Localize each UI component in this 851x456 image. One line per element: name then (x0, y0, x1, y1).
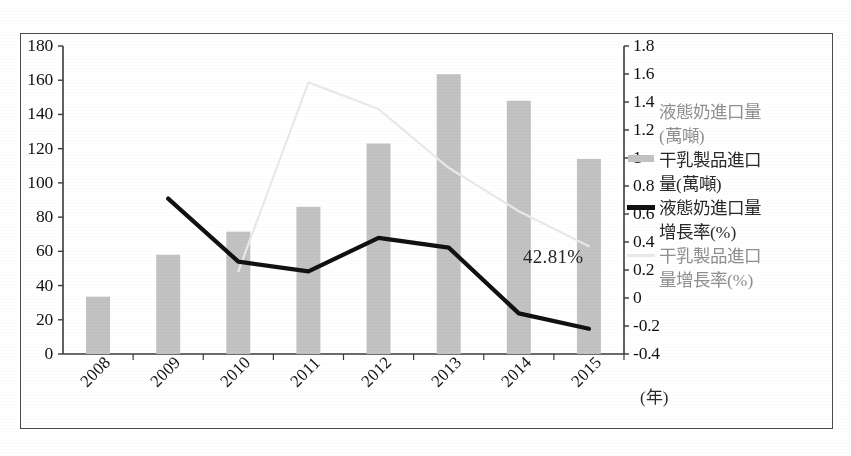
chart-legend: 液態奶進口量(萬噸)干乳製品進口量(萬噸)液態奶進口量增長率(%)干乳製品進口量… (626, 100, 831, 292)
legend-swatch-none-icon (626, 100, 656, 122)
y-axis-right-tick: 1.6 (633, 65, 654, 83)
legend-label-line2: (萬噸) (659, 126, 705, 146)
legend-label: 液態奶進口量(萬噸) (659, 100, 827, 148)
y-axis-left-tick: 180 (0, 37, 53, 55)
legend-item-3[interactable]: 液態奶進口量增長率(%) (626, 196, 831, 244)
legend-item-2[interactable]: 干乳製品進口量(萬噸) (626, 148, 831, 196)
y-axis-left-tick: 80 (0, 208, 53, 226)
legend-swatch-line-light-icon (626, 244, 656, 266)
y-axis-left-tick: 120 (0, 140, 53, 158)
legend-label-line2: 量增長率(%) (659, 270, 753, 290)
legend-swatch-line-dark-icon (626, 196, 656, 218)
legend-label-line2: 增長率(%) (659, 222, 736, 242)
data-annotation-42-81: 42.81% (523, 246, 583, 268)
y-axis-left-tick: 60 (0, 243, 53, 261)
y-axis-right-tick: -0.2 (633, 317, 660, 335)
y-axis-left-tick: 100 (0, 174, 53, 192)
y-axis-right-tick: 1.8 (633, 37, 654, 55)
y-axis-right-tick: -0.4 (633, 345, 660, 363)
legend-item-4[interactable]: 干乳製品進口量增長率(%) (626, 244, 831, 292)
y-axis-left-tick: 40 (0, 277, 53, 295)
y-axis-left-tick: 20 (0, 311, 53, 329)
y-axis-left-tick: 140 (0, 106, 53, 124)
legend-label: 液態奶進口量增長率(%) (659, 196, 827, 244)
legend-label-line2: 量(萬噸) (659, 174, 722, 194)
x-axis-unit-label: (年) (640, 383, 668, 408)
y-axis-left-tick: 160 (0, 71, 53, 89)
legend-swatch-bar-icon (626, 148, 656, 170)
legend-item-1[interactable]: 液態奶進口量(萬噸) (626, 100, 831, 148)
legend-label: 干乳製品進口量增長率(%) (659, 244, 827, 292)
y-axis-left-tick: 0 (0, 345, 53, 363)
legend-label: 干乳製品進口量(萬噸) (659, 148, 827, 196)
